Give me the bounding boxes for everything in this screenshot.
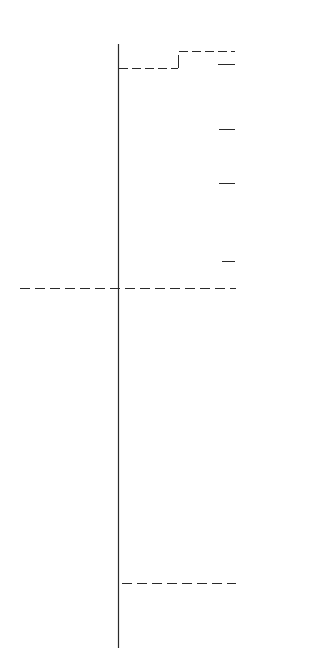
- timescale-diagram: [0, 0, 315, 671]
